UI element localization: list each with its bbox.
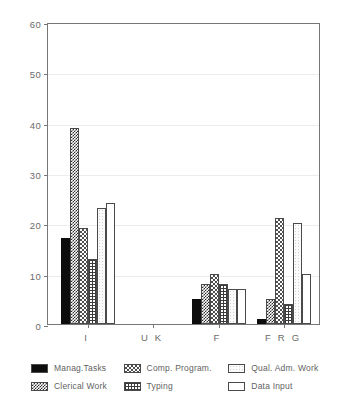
x-tick-label: F xyxy=(214,332,222,343)
legend-item[interactable]: Manag.Tasks xyxy=(31,359,110,377)
legend-swatch xyxy=(228,382,245,391)
bar xyxy=(266,299,275,324)
y-tick-label: 10 xyxy=(2,270,48,281)
chart-legend: Manag.TasksComp. Program.Qual. Adm. Work… xyxy=(31,359,321,395)
bar xyxy=(237,289,246,324)
bar xyxy=(79,228,88,324)
bar xyxy=(210,274,219,324)
x-tick-label: I xyxy=(84,332,89,343)
bar xyxy=(192,299,201,324)
legend-item[interactable]: Typing xyxy=(124,377,215,395)
y-tick-label: 0 xyxy=(2,321,48,332)
bar xyxy=(70,128,79,324)
x-tick-label: F R G xyxy=(265,332,301,343)
bar xyxy=(257,319,266,324)
bar xyxy=(61,238,70,324)
bar-group xyxy=(192,24,246,324)
bar-group xyxy=(126,24,180,324)
bar xyxy=(201,284,210,324)
legend-label: Typing xyxy=(147,381,173,391)
bar xyxy=(97,208,106,324)
x-tick-mark xyxy=(219,324,220,328)
x-tick-label: U K xyxy=(141,332,163,343)
bar xyxy=(228,289,237,324)
bar-group xyxy=(257,24,311,324)
plot-area: 0102030405060 xyxy=(47,23,320,325)
bar-groups xyxy=(48,24,319,324)
legend-label: Comp. Program. xyxy=(147,363,212,373)
legend-label: Manag.Tasks xyxy=(54,363,106,373)
bar xyxy=(293,223,302,324)
legend-swatch xyxy=(31,364,48,373)
legend-item[interactable]: Comp. Program. xyxy=(124,359,215,377)
x-tick-mark xyxy=(153,324,154,328)
legend-swatch xyxy=(31,382,48,391)
y-tick-label: 50 xyxy=(2,69,48,80)
legend-swatch xyxy=(124,364,141,373)
bar xyxy=(106,203,115,324)
bar xyxy=(275,218,284,324)
y-tick-label: 30 xyxy=(2,170,48,181)
legend-swatch xyxy=(124,382,141,391)
bar xyxy=(302,274,311,324)
legend-item[interactable]: Clerical Work xyxy=(31,377,110,395)
y-tick-label: 40 xyxy=(2,119,48,130)
bar xyxy=(219,284,228,324)
legend-item[interactable]: Qual. Adm. Work xyxy=(228,359,321,377)
x-tick-mark xyxy=(88,324,89,328)
bar-group xyxy=(61,24,115,324)
bar xyxy=(284,304,293,324)
legend-swatch xyxy=(228,364,245,373)
legend-item[interactable]: Data Input xyxy=(228,377,321,395)
bar xyxy=(88,259,97,324)
legend-label: Clerical Work xyxy=(54,381,107,391)
legend-label: Qual. Adm. Work xyxy=(251,363,318,373)
x-tick-mark xyxy=(284,324,285,328)
y-tick-label: 60 xyxy=(2,19,48,30)
y-tick-label: 20 xyxy=(2,220,48,231)
bar-chart: 0102030405060 IU KFF R G Manag.TasksComp… xyxy=(0,0,337,408)
legend-label: Data Input xyxy=(251,381,292,391)
